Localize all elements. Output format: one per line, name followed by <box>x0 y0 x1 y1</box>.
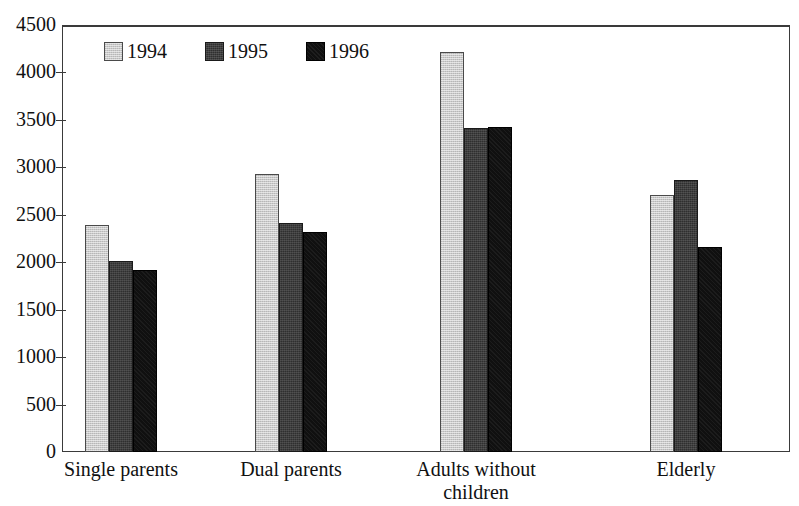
x-axis: Single parentsDual parentsAdults without… <box>0 0 799 506</box>
x-axis-label-line: Adults without <box>366 458 586 481</box>
bar-chart: 050010001500200025003000350040004500 199… <box>0 0 799 506</box>
x-axis-label: Elderly <box>576 458 796 481</box>
x-axis-label: Adults withoutchildren <box>366 458 586 504</box>
x-axis-label-line: children <box>366 481 586 504</box>
x-axis-label-line: Elderly <box>576 458 796 481</box>
